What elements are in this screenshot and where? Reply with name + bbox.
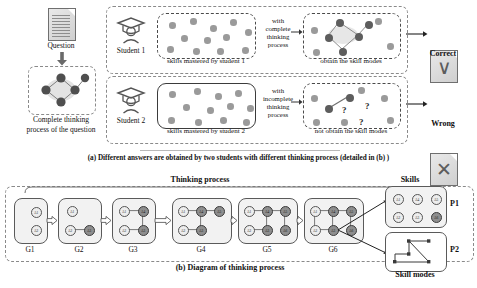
skills-node-label: A5 [435, 198, 439, 202]
stage-node-label: A4 [266, 210, 270, 214]
skills-node-a4: A4 [412, 194, 423, 205]
stage-node-label: A1 [182, 210, 186, 214]
caption-b: (b) Diagram of thinking process [130, 264, 330, 272]
stage-node-label: A3 [88, 229, 92, 233]
skill-modes-graph [385, 232, 445, 270]
skill-modes-title: Skill modes [375, 271, 455, 279]
skills-node-label: A4 [416, 198, 420, 202]
skills-node-label: A2 [397, 216, 401, 220]
stage-node-label: A2 [35, 229, 39, 233]
stage-arrow-icon [297, 216, 303, 225]
skills-node-label: A1 [397, 198, 401, 202]
stage-arrow-icon [155, 216, 171, 225]
skills-node-a5: A5 [431, 194, 442, 205]
skills-node-label: A6 [435, 216, 439, 220]
stage-node-label: A1 [248, 210, 252, 214]
stage-arrow-icon [47, 216, 57, 225]
stage-edges-g3 [112, 198, 154, 242]
stage-node-label: A2 [248, 229, 252, 233]
stage-node-label: A1 [35, 211, 39, 215]
stage-label-g2: G2 [48, 246, 110, 254]
fanout-arrows [336, 196, 392, 258]
stage-node-label: A4 [200, 210, 204, 214]
p2-label: P2 [450, 246, 459, 254]
stage-node-label: A5 [284, 210, 288, 214]
skills-node-a6: A6 [431, 212, 442, 223]
stage-node-label: A2 [123, 229, 127, 233]
stage-edges-g1 [14, 198, 46, 242]
stage-node-label: A6 [284, 229, 288, 233]
stage-edges-g2 [58, 198, 100, 242]
stage-node-label: A1 [123, 210, 127, 214]
stage-arrow-icon [101, 216, 111, 225]
stage-node-label: A3 [266, 229, 270, 233]
skills-box: A1A4A5A2A3A6 [385, 186, 447, 228]
stage-arrow-icon [231, 216, 237, 225]
skills-node-a2: A2 [393, 212, 404, 223]
skills-node-a3: A3 [412, 212, 423, 223]
stage-node-label: A1 [71, 210, 75, 214]
stage-node-label: A5 [218, 210, 222, 214]
stage-label-g3: G3 [102, 246, 164, 254]
skills-title: Skills [378, 176, 442, 184]
p1-label: P1 [450, 200, 459, 208]
stage-node-label: A1 [314, 210, 318, 214]
stage-node-label: A3 [142, 229, 146, 233]
stage-node-label: A4 [142, 210, 146, 214]
stage-node-label: A2 [314, 229, 318, 233]
stage-node-label: A2 [182, 229, 186, 233]
skills-node-label: A3 [416, 216, 420, 220]
stage-node-label: A2 [69, 229, 73, 233]
skills-node-a1: A1 [393, 194, 404, 205]
stage-node-label: A3 [200, 229, 204, 233]
figure-root: Question Complete thinking process of th… [0, 0, 477, 288]
